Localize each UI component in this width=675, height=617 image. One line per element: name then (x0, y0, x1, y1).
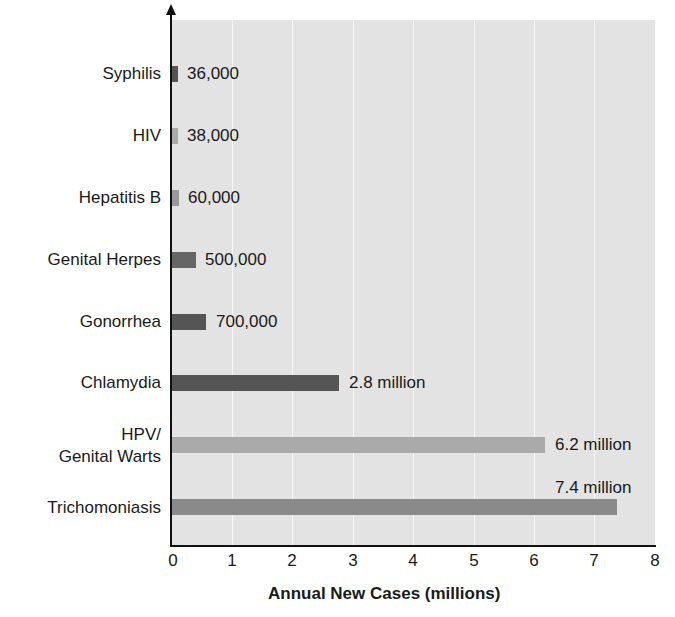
x-tick-label: 6 (524, 551, 544, 571)
category-label: Chlamydia (81, 373, 161, 393)
category-label-line2: Genital Warts (59, 447, 161, 467)
gridline (353, 20, 354, 546)
bar-hpv-genital-warts (172, 437, 545, 453)
value-label: 36,000 (187, 64, 239, 84)
bar-trichomoniasis (172, 499, 617, 515)
x-tick-label: 1 (222, 551, 242, 571)
value-label: 38,000 (187, 126, 239, 146)
bar-hiv (172, 128, 178, 144)
category-label: Gonorrhea (80, 312, 161, 332)
bar-gonorrhea (172, 314, 206, 330)
x-tick-label: 3 (343, 551, 363, 571)
x-axis-title: Annual New Cases (millions) (268, 584, 500, 604)
gridline (413, 20, 414, 546)
category-label: Syphilis (102, 64, 161, 84)
value-label: 6.2 million (555, 435, 632, 455)
y-axis (170, 10, 172, 547)
bar-chlamydia (172, 375, 339, 391)
bar-syphilis (172, 66, 178, 82)
category-label: Hepatitis B (79, 188, 161, 208)
value-label: 7.4 million (555, 478, 632, 498)
x-tick-label: 2 (282, 551, 302, 571)
x-tick-label: 8 (645, 551, 665, 571)
x-tick-label: 7 (584, 551, 604, 571)
gridline (232, 20, 233, 546)
gridline (534, 20, 535, 546)
x-tick-label: 5 (464, 551, 484, 571)
x-axis (170, 545, 656, 547)
category-label: Trichomoniasis (47, 498, 161, 518)
category-label: Genital Herpes (48, 250, 161, 270)
category-label-line1: HPV/ (121, 425, 161, 445)
value-label: 500,000 (205, 250, 266, 270)
gridline (474, 20, 475, 546)
value-label: 2.8 million (349, 373, 426, 393)
gridline (594, 20, 595, 546)
std-cases-bar-chart: Syphilis HIV Hepatitis B Genital Herpes … (0, 0, 675, 617)
category-label: HIV (133, 126, 161, 146)
y-axis-arrow-icon (166, 4, 176, 15)
bar-genital-herpes (172, 252, 196, 268)
x-tick-label: 0 (163, 551, 183, 571)
value-label: 60,000 (188, 188, 240, 208)
value-label: 700,000 (216, 312, 277, 332)
gridline (292, 20, 293, 546)
x-tick-label: 4 (403, 551, 423, 571)
bar-hepatitis-b (172, 190, 179, 206)
